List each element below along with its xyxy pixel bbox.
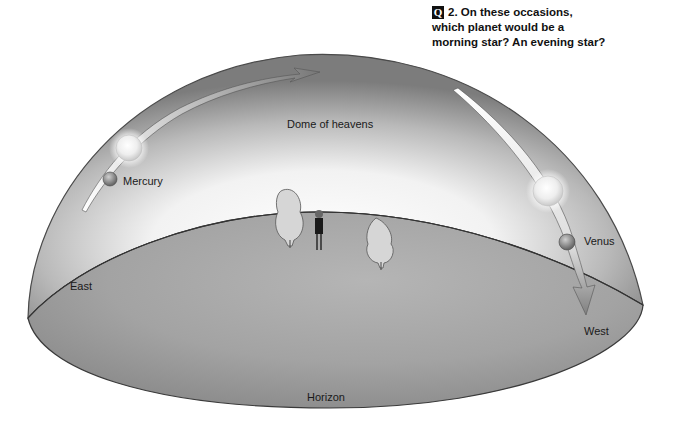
west-label: West (584, 325, 609, 337)
question-badge: Q (432, 6, 444, 19)
sun-west (533, 176, 563, 206)
question-line-1: On these occasions, (461, 6, 573, 18)
horizon-label: Horizon (307, 391, 345, 403)
venus-label: Venus (584, 235, 615, 247)
mercury-planet (103, 172, 117, 186)
sun-east (116, 135, 142, 161)
question-block: Q2. On these occasions, which planet wou… (432, 5, 672, 50)
mercury-label: Mercury (123, 175, 163, 187)
celestial-dome-illustration (0, 0, 675, 423)
question-number: 2. (448, 6, 458, 18)
dome-label: Dome of heavens (287, 118, 373, 130)
question-line-2: which planet would be a (432, 21, 564, 33)
question-line-3: morning star? An evening star? (432, 36, 605, 48)
venus-planet (559, 234, 575, 250)
east-label: East (70, 280, 92, 292)
